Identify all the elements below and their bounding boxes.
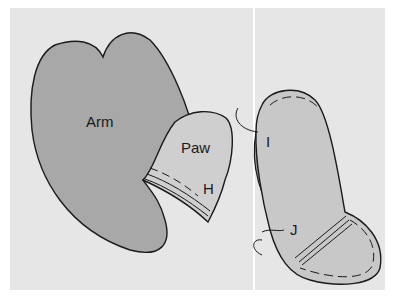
thread-i-icon <box>236 108 258 132</box>
label-arm: Arm <box>86 113 114 130</box>
label-i: I <box>266 133 270 150</box>
label-paw: Paw <box>181 139 210 156</box>
sewing-diagram: Arm Paw H I J <box>0 0 393 298</box>
body-piece-shape <box>256 90 381 284</box>
label-j: J <box>290 221 298 238</box>
label-h: H <box>203 180 214 197</box>
